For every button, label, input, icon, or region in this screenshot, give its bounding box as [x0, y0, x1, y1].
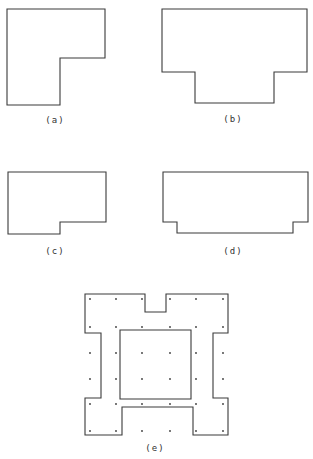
grid-point-array [89, 298, 224, 432]
grid-point [89, 326, 91, 328]
grid-point [169, 403, 171, 405]
grid-point [89, 403, 91, 405]
notched-rectangle-plate [8, 172, 106, 234]
panel-label-e: (e) [145, 443, 164, 453]
grid-point [115, 352, 117, 354]
grid-point [195, 298, 197, 300]
grid-point [115, 378, 117, 380]
grid-point [89, 378, 91, 380]
panel-label-b: (b) [223, 114, 242, 124]
grid-point [115, 326, 117, 328]
frame-inner-opening [120, 330, 191, 399]
grid-point [141, 403, 143, 405]
grid-point [141, 352, 143, 354]
grid-point [115, 298, 117, 300]
l-shaped-plate [7, 9, 105, 105]
grid-point [169, 430, 171, 432]
grid-point [222, 352, 224, 354]
panel-d: (d) [163, 172, 308, 256]
panel-a: (a) [7, 9, 105, 125]
grid-point [222, 378, 224, 380]
panel-e: (e) [85, 294, 228, 453]
grid-point [89, 352, 91, 354]
t-shaped-plate [162, 9, 307, 103]
grid-point [222, 403, 224, 405]
panel-label-c: (c) [45, 246, 64, 256]
panel-b: (b) [162, 9, 307, 124]
grid-point [195, 378, 197, 380]
grid-point [169, 326, 171, 328]
grid-point [141, 298, 143, 300]
panel-label-a: (a) [45, 115, 64, 125]
grid-point [169, 352, 171, 354]
grid-point [169, 298, 171, 300]
grid-point [89, 430, 91, 432]
grid-point [222, 298, 224, 300]
frame-outer-boundary [85, 294, 228, 435]
double-notched-rectangle-plate [163, 172, 308, 233]
grid-point [222, 430, 224, 432]
grid-point [141, 430, 143, 432]
grid-point [195, 403, 197, 405]
grid-point [195, 430, 197, 432]
grid-point [115, 403, 117, 405]
grid-point [195, 352, 197, 354]
panel-c: (c) [8, 172, 106, 256]
grid-point [141, 326, 143, 328]
grid-point [115, 430, 117, 432]
panel-label-d: (d) [223, 246, 242, 256]
grid-point [222, 326, 224, 328]
grid-point [141, 378, 143, 380]
grid-point [169, 378, 171, 380]
grid-point [89, 298, 91, 300]
figure-canvas: (a) (b) (c) (d) (e) [0, 0, 313, 459]
grid-point [195, 326, 197, 328]
